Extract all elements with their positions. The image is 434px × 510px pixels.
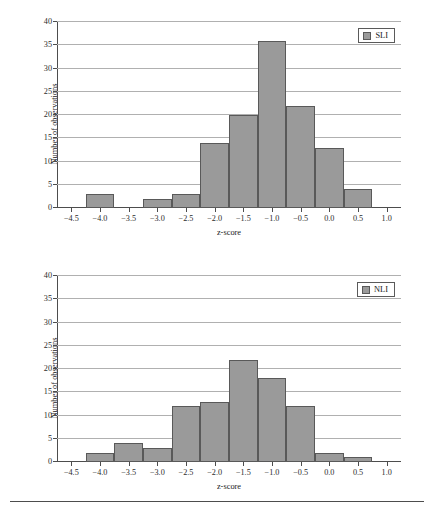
x-tick-label: 0.0: [324, 468, 334, 477]
x-tick-label: 0.5: [353, 468, 363, 477]
histogram-bar: [200, 402, 229, 462]
x-tick-mark: [243, 208, 244, 212]
histogram-bar: [286, 106, 315, 208]
x-tick-label: −2.5: [179, 214, 194, 223]
histogram-bar: [315, 453, 344, 462]
x-tick-mark: [129, 208, 130, 212]
x-tick-label: −3.0: [150, 214, 165, 223]
y-tick-mark: [53, 298, 57, 299]
bars-sli: [57, 22, 401, 208]
y-tick-label: 25: [44, 88, 52, 96]
histogram-bar: [229, 360, 258, 462]
y-tick-mark: [53, 207, 57, 208]
x-tick-mark: [186, 462, 187, 466]
histogram-bar: [315, 148, 344, 208]
x-tick-label: −0.5: [293, 214, 308, 223]
y-tick-label: 40: [44, 272, 52, 280]
plot-wrap-nli: 0510152025303540−4.5−4.0−3.5−3.0−2.5−2.0…: [57, 276, 401, 462]
x-tick-label: −4.0: [93, 214, 108, 223]
y-tick-label: 10: [44, 412, 52, 420]
y-tick-label: 20: [44, 365, 52, 373]
histogram-bar: [258, 41, 287, 208]
histogram-bar: [143, 448, 172, 462]
y-tick-mark: [53, 275, 57, 276]
x-tick-label: 0.5: [353, 214, 363, 223]
histogram-bar: [86, 453, 115, 462]
y-tick-label: 15: [44, 134, 52, 142]
x-axis-label-sli: z-score: [57, 228, 401, 237]
legend-label-sli: SLI: [375, 32, 388, 40]
x-tick-mark: [358, 208, 359, 212]
x-tick-mark: [100, 208, 101, 212]
x-tick-label: 1.0: [382, 214, 392, 223]
y-tick-mark: [53, 345, 57, 346]
x-tick-mark: [329, 462, 330, 466]
y-tick-mark: [53, 322, 57, 323]
x-tick-mark: [243, 462, 244, 466]
x-tick-label: −4.0: [93, 468, 108, 477]
x-tick-label: −2.0: [207, 468, 222, 477]
x-tick-mark: [272, 208, 273, 212]
legend-sli: SLI: [358, 28, 395, 43]
y-tick-label: 5: [48, 435, 52, 443]
y-tick-mark: [53, 21, 57, 22]
x-tick-mark: [358, 462, 359, 466]
histogram-bar: [258, 378, 287, 462]
x-tick-label: 0.0: [324, 214, 334, 223]
x-tick-label: −3.5: [121, 468, 136, 477]
y-tick-mark: [53, 161, 57, 162]
x-tick-label: 1.0: [382, 468, 392, 477]
x-tick-mark: [186, 208, 187, 212]
y-tick-label: 25: [44, 342, 52, 350]
x-tick-mark: [157, 208, 158, 212]
y-tick-label: 35: [44, 295, 52, 303]
x-tick-label: −4.5: [64, 468, 79, 477]
x-tick-mark: [329, 208, 330, 212]
y-tick-label: 30: [44, 319, 52, 327]
histogram-bar: [86, 194, 115, 208]
histogram-bar: [143, 199, 172, 208]
x-tick-label: −1.5: [236, 214, 251, 223]
y-tick-mark: [53, 68, 57, 69]
bars-nli: [57, 276, 401, 462]
y-tick-label: 0: [48, 204, 52, 212]
x-axis-label-nli: z-score: [57, 482, 401, 491]
x-tick-label: −3.0: [150, 468, 165, 477]
y-tick-mark: [53, 91, 57, 92]
legend-swatch-icon: [363, 32, 371, 40]
x-tick-mark: [100, 462, 101, 466]
y-tick-label: 35: [44, 41, 52, 49]
histogram-bar: [172, 406, 201, 462]
x-tick-mark: [387, 462, 388, 466]
y-tick-label: 0: [48, 458, 52, 466]
y-tick-mark: [53, 438, 57, 439]
x-tick-mark: [157, 462, 158, 466]
chart-panel-nli: Number of observations 0510152025303540−…: [0, 254, 434, 502]
legend-label-nli: NLI: [374, 286, 388, 294]
plot-wrap-sli: 0510152025303540−4.5−4.0−3.5−3.0−2.5−2.0…: [57, 22, 401, 208]
y-tick-label: 40: [44, 18, 52, 26]
x-tick-mark: [272, 462, 273, 466]
y-tick-mark: [53, 415, 57, 416]
y-tick-mark: [53, 391, 57, 392]
histogram-bar: [286, 406, 315, 462]
x-tick-label: −2.5: [179, 468, 194, 477]
y-tick-mark: [53, 368, 57, 369]
y-tick-mark: [53, 461, 57, 462]
x-tick-mark: [215, 208, 216, 212]
x-tick-mark: [301, 208, 302, 212]
x-tick-mark: [71, 208, 72, 212]
y-tick-mark: [53, 114, 57, 115]
x-tick-mark: [215, 462, 216, 466]
legend-nli: NLI: [357, 282, 395, 297]
y-tick-mark: [53, 184, 57, 185]
y-tick-mark: [53, 44, 57, 45]
x-tick-label: −0.5: [293, 468, 308, 477]
histogram-bar: [344, 189, 373, 208]
y-tick-label: 15: [44, 388, 52, 396]
histogram-figure: Number of observations 0510152025303540−…: [0, 0, 434, 510]
chart-panel-sli: Number of observations 0510152025303540−…: [0, 0, 434, 248]
x-tick-label: −2.0: [207, 214, 222, 223]
legend-swatch-icon: [362, 286, 370, 294]
x-tick-label: −4.5: [64, 214, 79, 223]
